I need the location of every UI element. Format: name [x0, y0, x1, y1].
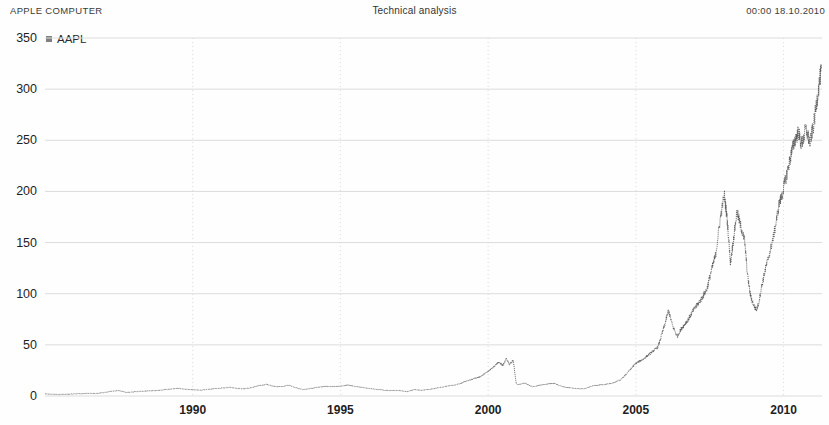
- svg-text:300: 300: [16, 82, 37, 96]
- svg-text:0: 0: [30, 389, 37, 403]
- vertical-gridlines: [193, 38, 784, 396]
- svg-text:200: 200: [16, 184, 37, 198]
- y-axis-tick-labels: 050100150200250300350: [16, 31, 37, 403]
- svg-text:150: 150: [16, 236, 37, 250]
- svg-text:1995: 1995: [327, 403, 354, 417]
- horizontal-gridlines: [45, 38, 822, 396]
- svg-text:2000: 2000: [475, 403, 502, 417]
- x-axis-tick-labels: 19901995200020052010: [179, 403, 797, 417]
- svg-text:100: 100: [16, 287, 37, 301]
- price-plot: 050100150200250300350 199019952000200520…: [0, 0, 829, 425]
- svg-text:250: 250: [16, 133, 37, 147]
- svg-text:2010: 2010: [770, 403, 797, 417]
- svg-text:1990: 1990: [179, 403, 206, 417]
- stock-chart-window: APPLE COMPUTER Technical analysis 00:00 …: [0, 0, 829, 425]
- svg-text:50: 50: [23, 338, 37, 352]
- svg-text:350: 350: [16, 31, 37, 45]
- svg-text:2005: 2005: [623, 403, 650, 417]
